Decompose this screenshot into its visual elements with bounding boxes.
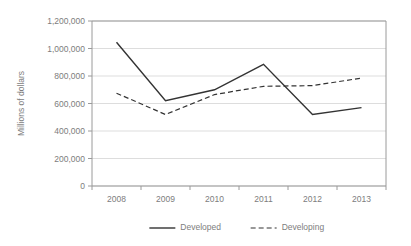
- x-tick-label: 2009: [156, 194, 175, 204]
- y-tick-label: 1,200,000: [47, 16, 85, 26]
- y-tick-label: 400,000: [54, 126, 85, 136]
- chart-legend: DevelopedDeveloping: [149, 222, 324, 232]
- x-tick-label: 2013: [352, 194, 371, 204]
- y-tick-label: 600,000: [54, 99, 85, 109]
- y-axis-tick-labels: 0200,000400,000600,000800,0001,000,0001,…: [47, 16, 92, 191]
- gridlines: [92, 21, 386, 186]
- legend-label: Developed: [180, 222, 221, 232]
- legend-label: Developing: [282, 222, 325, 232]
- line-chart: 0200,000400,000600,000800,0001,000,0001,…: [0, 0, 411, 246]
- y-tick-label: 800,000: [54, 71, 85, 81]
- x-axis-tick-labels: 200820092010201120122013: [107, 194, 371, 204]
- legend-item-developed: Developed: [149, 222, 221, 232]
- y-axis-title: Millions of dollars: [16, 71, 26, 136]
- x-axis-tick-marks: [92, 186, 386, 190]
- x-tick-label: 2012: [303, 194, 322, 204]
- x-tick-label: 2010: [205, 194, 224, 204]
- y-tick-label: 1,000,000: [47, 44, 85, 54]
- legend-item-developing: Developing: [251, 222, 325, 232]
- x-tick-label: 2008: [107, 194, 126, 204]
- chart-canvas: 0200,000400,000600,000800,0001,000,0001,…: [0, 0, 411, 246]
- series-line-developing: [117, 78, 362, 114]
- x-tick-label: 2011: [254, 194, 273, 204]
- y-axis-title: Millions of dollars: [16, 71, 26, 136]
- y-tick-label: 0: [80, 181, 85, 191]
- y-tick-label: 200,000: [54, 154, 85, 164]
